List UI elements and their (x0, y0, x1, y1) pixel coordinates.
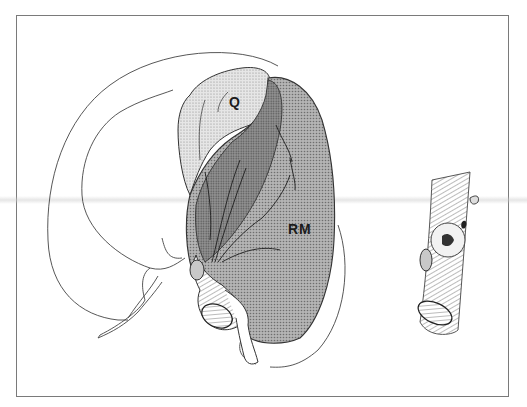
vessel-opening-small (190, 260, 204, 280)
segment-label-q: Q (229, 94, 241, 110)
inset-side-opening (420, 249, 432, 271)
segment-label-rm: RM (288, 221, 312, 237)
liver-illustration (0, 0, 527, 407)
inset-vessel-drawing (414, 172, 478, 334)
left-lobe-outline (82, 90, 185, 338)
